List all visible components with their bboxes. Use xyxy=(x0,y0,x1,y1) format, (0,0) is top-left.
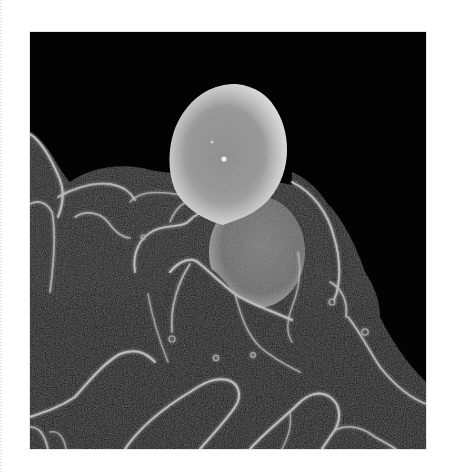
micrograph-frame xyxy=(30,32,426,449)
left-dotted-border xyxy=(0,0,2,473)
micrograph-image xyxy=(30,32,426,449)
